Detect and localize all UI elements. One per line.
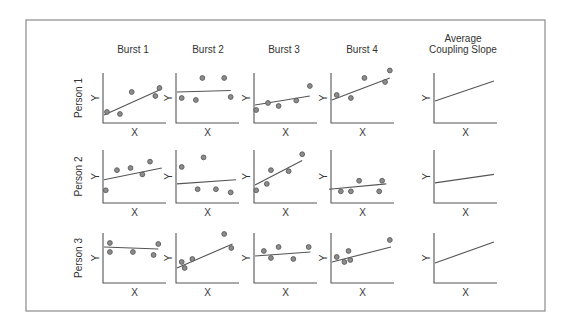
x-axis-label: X [204, 127, 211, 138]
panel-person3-burst1: XY [90, 233, 166, 298]
data-point [254, 108, 259, 113]
y-axis-label: Y [421, 94, 432, 101]
axes [434, 233, 497, 283]
data-point [128, 166, 133, 171]
x-axis-label: X [204, 207, 211, 218]
panel-person2-burst3: XY [241, 150, 317, 218]
regression-line [104, 247, 158, 249]
y-axis-label: Y [318, 173, 329, 180]
row-label-person2: Person 2 [73, 156, 84, 196]
data-point [195, 187, 200, 192]
data-point [129, 90, 134, 95]
data-point [108, 250, 113, 255]
x-axis-label: X [282, 127, 289, 138]
data-point [228, 95, 233, 100]
data-point [254, 188, 259, 193]
regression-line [435, 174, 494, 182]
panel-person1-burst1: XY [90, 73, 166, 138]
x-axis-label: X [462, 127, 469, 138]
data-point [179, 260, 184, 265]
data-point [153, 94, 158, 99]
data-point [222, 76, 227, 81]
data-point [348, 189, 353, 194]
axes [103, 233, 166, 283]
regression-line [104, 168, 162, 180]
data-point [108, 241, 113, 246]
data-point [348, 96, 353, 101]
data-point [229, 246, 234, 251]
y-axis-label: Y [421, 254, 432, 261]
regression-line [255, 96, 310, 105]
data-point [201, 155, 206, 160]
data-point [115, 168, 120, 173]
data-point [362, 76, 367, 81]
panel-person1-burst2: XY [163, 73, 239, 138]
x-axis-label: X [462, 287, 469, 298]
y-axis-label: Y [318, 94, 329, 101]
regression-line [435, 81, 494, 101]
data-point [380, 178, 385, 183]
panel-person2-average: XY [421, 150, 497, 218]
data-point [348, 258, 353, 263]
data-point [346, 249, 351, 254]
data-point [387, 238, 392, 243]
axes [331, 150, 394, 203]
x-axis-label: X [359, 287, 366, 298]
data-point [140, 172, 145, 177]
regression-line [177, 180, 236, 184]
y-axis-label: Y [318, 254, 329, 261]
data-point [307, 84, 312, 89]
data-point [264, 182, 269, 187]
panel-person3-burst4: XY [318, 233, 394, 298]
data-point [214, 187, 219, 192]
column-header-burst3: Burst 3 [268, 44, 300, 55]
x-axis-label: X [282, 287, 289, 298]
axes [254, 150, 317, 203]
panel-person2-burst1: XY [90, 150, 166, 218]
data-point [156, 242, 161, 247]
data-point [269, 256, 274, 261]
panel-grid: XYXYXYXYXYXYXYXYXYXYXYXYXYXYXY [90, 68, 497, 298]
panel-person3-burst3: XY [241, 233, 317, 298]
panel-person1-average: XY [421, 73, 497, 138]
panel-person2-burst4: XY [318, 150, 394, 218]
data-point [103, 188, 108, 193]
coupling-slope-figure: Burst 1Burst 2Burst 3Burst 4AverageCoupl… [0, 0, 570, 325]
figure-frame [26, 20, 545, 311]
axes [254, 73, 317, 123]
data-point [342, 260, 347, 265]
y-axis-label: Y [90, 94, 101, 101]
data-point [383, 80, 388, 85]
x-axis-label: X [131, 127, 138, 138]
data-point [266, 101, 271, 106]
data-point [294, 98, 299, 103]
axes [176, 233, 239, 283]
data-point [228, 190, 233, 195]
data-point [276, 245, 281, 250]
regression-line [177, 244, 232, 268]
panel-person1-burst4: XY [318, 68, 394, 138]
data-point [151, 253, 156, 258]
x-axis-label: X [282, 207, 289, 218]
data-point [300, 152, 305, 157]
y-axis-label: Y [241, 254, 252, 261]
y-axis-label: Y [421, 173, 432, 180]
column-header-burst1: Burst 1 [117, 44, 149, 55]
data-point [338, 189, 343, 194]
column-header-burst2: Burst 2 [192, 44, 224, 55]
axes [176, 150, 239, 203]
regression-line [332, 247, 391, 262]
x-axis-label: X [204, 287, 211, 298]
data-point [286, 169, 291, 174]
y-axis-label: Y [90, 254, 101, 261]
panel-person3-average: XY [421, 233, 497, 298]
data-point [200, 76, 205, 81]
panel-person2-burst2: XY [163, 150, 239, 218]
row-label-person1: Person 1 [73, 78, 84, 118]
column-header-average: Average [444, 33, 482, 44]
data-point [222, 232, 227, 237]
column-headers: Burst 1Burst 2Burst 3Burst 4AverageCoupl… [117, 33, 497, 55]
data-point [306, 245, 311, 250]
data-point [276, 104, 281, 109]
data-point [105, 110, 110, 115]
